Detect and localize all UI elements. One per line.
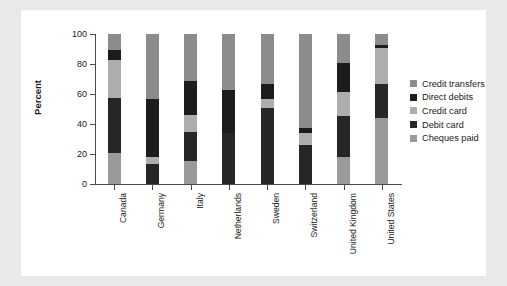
bar-stack: [108, 34, 121, 184]
x-tick-label: Sweden: [271, 193, 281, 224]
bar-segment: [146, 157, 159, 164]
legend-label: Debit card: [422, 120, 464, 130]
x-tick-mark: [267, 185, 268, 190]
x-tick-label: Germany: [156, 193, 166, 228]
x-tick-label: Italy: [195, 193, 205, 209]
bar-segment: [261, 34, 274, 84]
bar-segment: [261, 84, 274, 99]
bar-segment: [375, 84, 388, 119]
x-tick-mark: [382, 185, 383, 190]
x-tick-label: Netherlands: [233, 193, 243, 239]
bar-segment: [222, 133, 235, 184]
y-tick-label: 60: [59, 90, 87, 99]
bar-segment: [222, 34, 235, 90]
bar-stack: [337, 34, 350, 184]
legend-swatch-icon: [410, 107, 417, 114]
x-tick-label: United States: [386, 193, 396, 245]
bar-segment: [108, 34, 121, 50]
y-axis-label: Percent: [32, 68, 43, 128]
x-axis-line: [95, 184, 402, 185]
bar-stack: [299, 34, 312, 184]
bar-segment: [146, 34, 159, 99]
bar-segment: [261, 108, 274, 184]
legend-label: Cheques paid: [422, 133, 479, 143]
legend-item: Debit card: [410, 118, 507, 132]
bar-segment: [375, 34, 388, 45]
bar-segment: [337, 63, 350, 92]
bar-segment: [337, 116, 350, 157]
bar-stack: [146, 34, 159, 184]
bar-segment: [375, 118, 388, 184]
bar-segment: [108, 98, 121, 154]
y-tick-label: 80: [59, 60, 87, 69]
legend-label: Direct debits: [422, 92, 473, 102]
y-tick-label: 0: [59, 180, 87, 189]
bar-segment: [184, 81, 197, 115]
bar-segment: [261, 99, 274, 109]
bar-stack: [261, 34, 274, 184]
y-tick-label: 100: [59, 30, 87, 39]
bar-segment: [108, 153, 121, 184]
x-tick-mark: [344, 185, 345, 190]
legend-label: Credit transfers: [422, 79, 485, 89]
bar-segment: [375, 48, 388, 84]
bar-segment: [146, 164, 159, 184]
chart-figure: Percent 020406080100 CanadaGermanyItalyN…: [21, 10, 486, 276]
x-tick-mark: [305, 185, 306, 190]
bar-segment: [337, 34, 350, 63]
bar-segment: [299, 128, 312, 133]
bar-stack: [222, 34, 235, 184]
x-tick-label: Switzerland: [309, 193, 319, 237]
bar-stack: [375, 34, 388, 184]
legend-swatch-icon: [410, 121, 417, 128]
chart-legend: Credit transfersDirect debitsCredit card…: [410, 77, 507, 145]
x-tick-mark: [152, 185, 153, 190]
bar-segment: [337, 92, 350, 116]
bar-segment: [184, 34, 197, 81]
bar-stack: [184, 34, 197, 184]
bar-segment: [299, 34, 312, 128]
bar-segment: [184, 132, 197, 161]
legend-item: Direct debits: [410, 91, 507, 105]
bar-segment: [299, 145, 312, 184]
legend-swatch-icon: [410, 94, 417, 101]
x-tick-label: United Kingdom: [348, 193, 358, 254]
bar-segment: [108, 60, 121, 98]
legend-swatch-icon: [410, 135, 417, 142]
bar-segment: [375, 45, 388, 48]
bar-segment: [299, 133, 312, 145]
legend-item: Credit transfers: [410, 77, 507, 91]
x-tick-mark: [191, 185, 192, 190]
y-tick-label: 40: [59, 120, 87, 129]
bar-segment: [184, 161, 197, 184]
legend-swatch-icon: [410, 80, 417, 87]
bar-segment: [146, 99, 159, 158]
legend-label: Credit card: [422, 106, 467, 116]
x-tick-mark: [114, 185, 115, 190]
plot-area: [95, 34, 401, 184]
x-tick-mark: [229, 185, 230, 190]
bar-segment: [337, 157, 350, 184]
legend-item: Cheques paid: [410, 131, 507, 145]
bar-segment: [108, 50, 121, 60]
bar-segment: [222, 90, 235, 134]
x-tick-label: Canada: [118, 193, 128, 223]
legend-item: Credit card: [410, 104, 507, 118]
bar-segment: [184, 115, 197, 132]
y-tick-label: 20: [59, 150, 87, 159]
